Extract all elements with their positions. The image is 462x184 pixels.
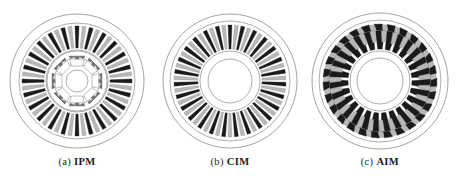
panel-ipm: (a)IPM — [0, 0, 154, 184]
cim-cross-section — [153, 8, 307, 156]
caption-cim: (b)CIM — [153, 156, 307, 167]
caption-tag-cim: (b) — [211, 156, 224, 167]
figure-root: (a)IPM (b)CIM (c)AIM — [0, 0, 462, 184]
aim-cross-section — [303, 8, 457, 156]
caption-name-ipm: IPM — [74, 156, 96, 167]
caption-tag-ipm: (a) — [58, 156, 71, 167]
panel-aim: (c)AIM — [303, 0, 457, 184]
caption-name-aim: AIM — [376, 156, 399, 167]
caption-ipm: (a)IPM — [0, 156, 154, 167]
caption-aim: (c)AIM — [303, 156, 457, 167]
panel-cim: (b)CIM — [153, 0, 307, 184]
caption-name-cim: CIM — [227, 156, 250, 167]
ipm-cross-section — [0, 8, 154, 156]
caption-tag-aim: (c) — [361, 156, 374, 167]
